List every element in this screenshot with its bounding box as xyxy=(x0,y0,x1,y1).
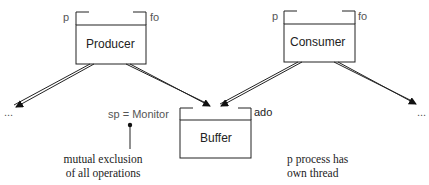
buffer-label: Buffer xyxy=(200,131,232,145)
producer-left-tag: p xyxy=(63,11,69,23)
ellipsis-right: ... xyxy=(417,106,426,118)
producer-label: Producer xyxy=(86,37,135,51)
mutex-annotation: mutual exclusion of all operations xyxy=(60,152,146,180)
process-line-2: own thread xyxy=(287,166,348,180)
process-line-1: p process has xyxy=(287,152,348,166)
arrow-producer-to-buffer xyxy=(126,64,210,106)
mutex-pin xyxy=(128,123,132,149)
consumer-left-tag: p xyxy=(272,10,278,22)
diagram-canvas: p fo Producer p fo Consumer ado Buffer s… xyxy=(0,0,429,185)
consumer-label: Consumer xyxy=(290,35,345,49)
buffer-right-tag: ado xyxy=(254,106,272,118)
mutex-line-2: of all operations xyxy=(60,166,146,180)
mutex-line-1: mutual exclusion xyxy=(60,152,146,166)
process-annotation: p process has own thread xyxy=(287,152,348,180)
arrow-consumer-to-buffer xyxy=(220,62,302,106)
ellipsis-left: ... xyxy=(4,106,13,118)
arrow-producer-to-left xyxy=(14,64,94,107)
producer-right-tag: fo xyxy=(150,11,159,23)
monitor-label: sp = Monitor xyxy=(108,108,169,120)
arrow-consumer-to-right xyxy=(334,62,416,104)
consumer-right-tag: fo xyxy=(358,10,367,22)
